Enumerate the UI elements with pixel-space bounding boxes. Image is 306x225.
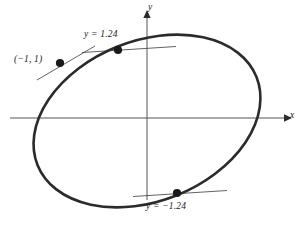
- marked-point-label: (−1, 1): [14, 54, 42, 64]
- x-axis: [10, 114, 292, 122]
- x-axis-label: x: [290, 110, 294, 120]
- y-axis-label: y: [148, 2, 152, 12]
- tangent-top-label: y = 1.24: [84, 29, 118, 39]
- marked-point: [56, 59, 64, 67]
- tangent-bottom-label: y = −1.24: [146, 201, 186, 211]
- tangent-point-bottom: [173, 189, 181, 197]
- ellipse-figure: [0, 0, 306, 225]
- tangent-line-top: [82, 47, 176, 53]
- tangent-point-top: [114, 46, 122, 54]
